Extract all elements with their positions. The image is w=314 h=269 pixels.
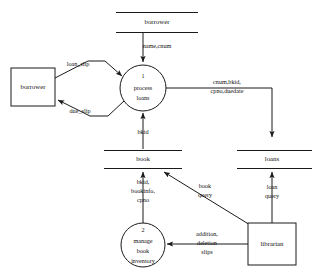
flow-bkid-bookinfo-cpno-line2: bookinfo, <box>131 187 155 194</box>
flow-name-cnum-label: name,cnum <box>143 42 172 49</box>
flow-bkid-bookinfo-cpno-line3: cpno <box>137 196 149 203</box>
data-store-book-label: book <box>136 155 150 162</box>
flow-addition-deletion-slips-line3: slips <box>201 248 213 255</box>
flow-addition-deletion-slips-line1: addition, <box>196 230 218 237</box>
flow-loan-query-line1: loan <box>267 183 278 190</box>
flow-book-query-line2: query <box>198 191 213 198</box>
data-store-borrower: borrower <box>116 13 198 33</box>
flow-bkid-bookinfo-cpno-line1: bkid, <box>137 178 150 185</box>
dfd-svg: borrower name,cnum 1 process loans borro… <box>0 0 314 269</box>
process-2-line2: book <box>137 247 150 254</box>
data-store-borrower-label: borrower <box>145 18 171 25</box>
flow-loan-query-line2: query <box>265 192 280 199</box>
process-1-line1: process <box>134 84 153 91</box>
dfd-canvas: borrower name,cnum 1 process loans borro… <box>0 0 314 269</box>
external-entity-borrower: borrower <box>11 68 55 106</box>
flow-due-slip: due_slip <box>58 100 124 116</box>
flow-addition-deletion-slips-line2: deletion <box>197 239 217 246</box>
flow-cnum-bkid-line1: cnum,bkid, <box>213 78 241 85</box>
flow-book-query: book query <box>164 172 255 228</box>
flow-name-cnum: name,cnum <box>143 33 172 62</box>
process-2-number: 2 <box>141 226 144 233</box>
process-2-line3: inventory <box>131 257 156 264</box>
data-store-loans: loans <box>237 151 312 169</box>
flow-cnum-bkid-cpno-duedate: cnum,bkid, cpno,duedate <box>166 78 272 137</box>
process-1-process-loans: 1 process loans <box>120 65 166 111</box>
process-2-line1: manage <box>133 237 152 244</box>
flow-loan-slip: loan_slip <box>55 60 122 78</box>
flow-bkid: bkid <box>137 113 149 149</box>
flow-bkid-bookinfo-cpno: bkid, bookinfo, cpno <box>131 172 155 225</box>
data-store-loans-label: loans <box>265 155 280 162</box>
process-1-number: 1 <box>141 72 144 79</box>
flow-loan-slip-label: loan_slip <box>67 60 90 67</box>
flow-loan-query: loan query <box>265 172 280 223</box>
process-1-line2: loans <box>136 94 150 101</box>
flow-book-query-line1: book <box>199 182 212 189</box>
external-entity-librarian: librarian <box>248 223 296 265</box>
flow-addition-deletion-slips: addition, deletion slips <box>167 230 248 255</box>
data-store-book: book <box>104 151 182 169</box>
external-entity-librarian-label: librarian <box>260 240 284 247</box>
flow-bkid-label: bkid <box>137 128 149 135</box>
flow-due-slip-label: due_slip <box>70 107 91 114</box>
flow-cnum-bkid-line2: cpno,duedate <box>211 87 244 94</box>
process-2-manage-book-inventory: 2 manage book inventory <box>121 223 165 267</box>
external-entity-borrower-label: borrower <box>21 83 47 90</box>
